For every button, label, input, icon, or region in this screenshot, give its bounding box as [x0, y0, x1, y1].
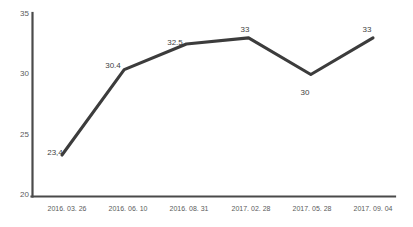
- x-tick-label-4: 2017. 05. 28: [293, 205, 332, 212]
- point-label-2: 32.5: [167, 38, 183, 47]
- point-label-0: 23,4: [47, 148, 63, 157]
- x-tick-label-5: 2017. 09. 04: [354, 205, 393, 212]
- point-label-3: 33: [241, 25, 250, 34]
- chart-plot-area: [0, 0, 413, 227]
- point-label-4: 30: [301, 88, 310, 97]
- y-tick-label-20: 20: [7, 190, 29, 199]
- x-tick-label-0: 2016. 03. 26: [48, 205, 87, 212]
- y-tick-label-35: 35: [7, 9, 29, 18]
- x-tick-label-2: 2016. 08. 31: [170, 205, 209, 212]
- y-tick-label-25: 25: [7, 130, 29, 139]
- y-tick-label-30: 30: [7, 69, 29, 78]
- line-chart: 35 30 25 20 2016. 03. 26 2016. 06. 10 20…: [0, 0, 413, 227]
- point-label-1: 30.4: [105, 61, 121, 70]
- data-series-line: [62, 38, 373, 155]
- x-tick-label-1: 2016. 06. 10: [109, 205, 148, 212]
- x-tick-label-3: 2017. 02. 28: [232, 205, 271, 212]
- point-label-5: 33: [363, 25, 372, 34]
